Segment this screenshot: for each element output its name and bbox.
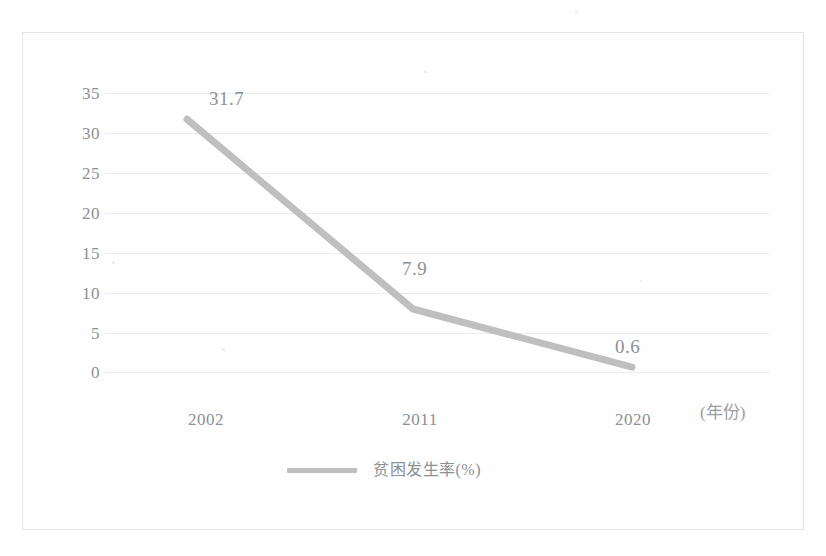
data-label-2020: 0.6 [615,337,640,356]
series-line-swatch [287,468,357,473]
chart-legend: 贫困发生率(%) [287,462,481,478]
scan-speckle [575,10,578,13]
y-tick-label-5: 5 [50,325,100,342]
data-label-2011: 7.9 [402,259,427,278]
plot-area [105,88,770,376]
scan-speckle [424,70,427,73]
legend-label-poverty-rate: 贫困发生率(%) [373,462,481,478]
gridline-25 [105,173,770,174]
y-tick-label-35: 35 [50,85,100,102]
gridline-10 [105,293,770,294]
y-axis: 35 30 25 20 15 10 5 0 [50,80,100,384]
y-tick-label-15: 15 [50,245,100,262]
gridline-20 [105,213,770,214]
gridline-5 [105,333,770,334]
gridline-35 [105,93,770,94]
gridline-15 [105,253,770,254]
x-tick-label-2011: 2011 [402,411,437,428]
x-tick-label-2002: 2002 [188,411,224,428]
data-label-2002: 31.7 [209,89,244,108]
x-tick-label-2020: 2020 [615,411,651,428]
gridline-30 [105,133,770,134]
gridline-0 [105,372,770,373]
y-tick-label-0: 0 [50,364,100,381]
poverty-rate-line-chart: 35 30 25 20 15 10 5 0 31.7 7.9 0.6 2002 … [0,0,826,556]
y-tick-label-10: 10 [50,285,100,302]
y-tick-label-25: 25 [50,165,100,182]
y-tick-label-30: 30 [50,125,100,142]
y-tick-label-20: 20 [50,205,100,222]
x-axis-unit-label: (年份) [700,404,745,421]
